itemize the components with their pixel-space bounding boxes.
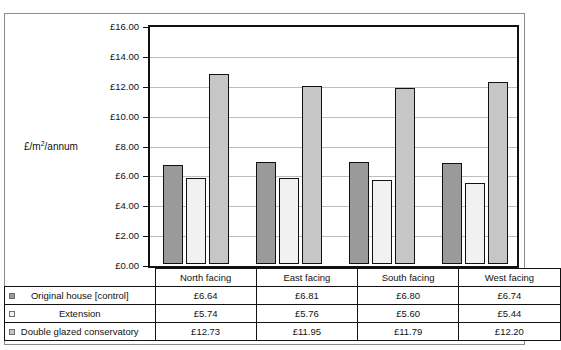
table-row: Double glazed conservatory£12.73£11.95£1… [5, 323, 561, 341]
table-cell: £5.76 [256, 305, 357, 323]
column-header-2: South facing [358, 269, 459, 287]
y-axis-title-base: £/m [24, 141, 41, 152]
y-axis-tick [143, 87, 148, 88]
table-cell: £6.64 [155, 287, 256, 305]
table-cell: £6.80 [358, 287, 459, 305]
table-row: Original house [control]£6.64£6.81£6.80£… [5, 287, 561, 305]
bar[interactable] [186, 178, 206, 264]
y-axis-tick-label: £4.00 [115, 201, 139, 211]
legend-row-label: Extension [5, 305, 156, 323]
bar[interactable] [349, 162, 369, 264]
y-axis-tick-label: £10.00 [110, 112, 139, 122]
y-axis-title-tail: /annum [45, 141, 78, 152]
bar[interactable] [302, 86, 322, 265]
table-corner-cell [5, 269, 156, 287]
bar[interactable] [442, 163, 462, 264]
y-axis-tick-label: £14.00 [110, 52, 139, 62]
table-cell: £5.60 [358, 305, 459, 323]
y-axis-tick [143, 206, 148, 207]
y-axis-tick-label: £12.00 [110, 82, 139, 92]
bar[interactable] [279, 178, 299, 264]
table-cell: £5.74 [155, 305, 256, 323]
legend-swatch-icon [9, 311, 15, 317]
table-cell: £5.44 [459, 305, 560, 323]
column-header-0: North facing [155, 269, 256, 287]
column-header-1: East facing [256, 269, 357, 287]
bar[interactable] [395, 88, 415, 264]
y-axis-tick [143, 236, 148, 237]
y-axis-tick-label: £6.00 [115, 171, 139, 181]
legend-row-label: Original house [control] [5, 287, 156, 305]
legend-swatch-icon [9, 293, 15, 299]
table-cell: £12.73 [155, 323, 256, 341]
bar[interactable] [488, 82, 508, 264]
legend-label-text: Original house [control] [31, 290, 129, 301]
data-table-wrapper: North facingEast facingSouth facingWest … [4, 268, 525, 340]
y-axis-tick [143, 176, 148, 177]
table-row: Extension£5.74£5.76£5.60£5.44 [5, 305, 561, 323]
bar-group [150, 27, 243, 266]
table-cell: £6.74 [459, 287, 560, 305]
table-header-row: North facingEast facingSouth facingWest … [5, 269, 561, 287]
bar[interactable] [163, 165, 183, 264]
legend-row-label: Double glazed conservatory [5, 323, 156, 341]
y-axis-title: £/m2/annum [24, 141, 124, 153]
bar[interactable] [256, 162, 276, 264]
bar-group [428, 27, 519, 266]
y-axis-tick-label: £8.00 [115, 142, 139, 152]
plot-area [148, 25, 519, 268]
bar[interactable] [465, 183, 485, 264]
table-cell: £11.95 [256, 323, 357, 341]
y-axis-tick [143, 147, 148, 148]
legend-label-text: Double glazed conservatory [21, 326, 139, 337]
y-axis-tick [143, 57, 148, 58]
y-axis-tick [143, 27, 148, 28]
y-axis-tick [143, 266, 148, 267]
plot-wrapper: £0.00£2.00£4.00£6.00£8.00£10.00£12.00£14… [148, 25, 519, 268]
data-table: North facingEast facingSouth facingWest … [4, 268, 561, 341]
y-axis-tick-label: £2.00 [115, 231, 139, 241]
table-cell: £11.79 [358, 323, 459, 341]
bar-group [336, 27, 429, 266]
legend-label-text: Extension [59, 308, 101, 319]
bar[interactable] [372, 180, 392, 264]
bar-group [243, 27, 336, 266]
column-header-3: West facing [459, 269, 560, 287]
table-cell: £12.20 [459, 323, 560, 341]
y-axis-tick [143, 117, 148, 118]
y-axis-tick-label: £16.00 [110, 22, 139, 32]
data-table-body: North facingEast facingSouth facingWest … [5, 269, 561, 341]
legend-swatch-icon [9, 329, 15, 335]
table-cell: £6.81 [256, 287, 357, 305]
bar[interactable] [209, 74, 229, 264]
